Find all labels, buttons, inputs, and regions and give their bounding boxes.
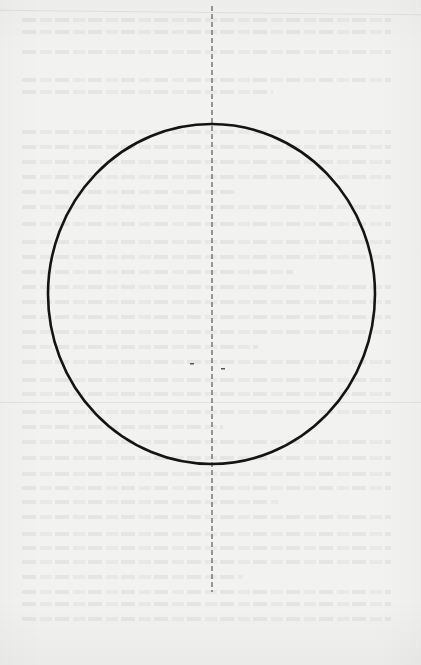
speck [190,363,194,365]
scanned-page [0,0,421,665]
speck [221,368,225,370]
speck-marks [190,363,225,370]
diagram-figure [0,0,421,665]
